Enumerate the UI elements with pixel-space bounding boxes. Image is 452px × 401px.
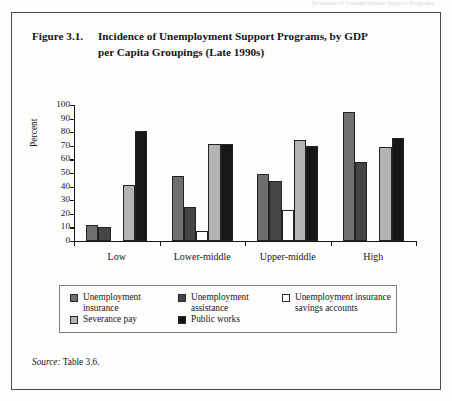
y-axis-tick-labels: 0102030405060708090100 xyxy=(46,105,70,241)
legend-label: Public works xyxy=(191,314,240,325)
y-axis-line xyxy=(74,105,75,241)
bar xyxy=(196,231,208,241)
legend-swatch-icon xyxy=(178,294,186,302)
x-axis-category-label: Upper-middle xyxy=(260,251,316,262)
y-tick-mark xyxy=(70,105,74,106)
legend-swatch-icon xyxy=(282,294,290,302)
y-tick-label: 40 xyxy=(61,182,70,191)
bar xyxy=(172,176,184,241)
bar xyxy=(379,147,391,241)
bar xyxy=(269,181,281,241)
y-tick-label: 60 xyxy=(61,155,70,164)
chart-legend: Unemployment insuranceUnemployment assis… xyxy=(59,285,397,333)
y-tick-mark xyxy=(70,173,74,174)
figure-title-line2: per Capita Groupings (Late 1990s) xyxy=(98,45,422,61)
chart-axes: LowLower-middleUpper-middleHigh xyxy=(74,105,416,241)
bar xyxy=(257,174,269,241)
bar xyxy=(294,140,306,241)
bar xyxy=(123,185,135,241)
y-tick-mark xyxy=(70,159,74,160)
figure-title: Figure 3.1.Incidence of Unemployment Sup… xyxy=(32,29,422,60)
bar xyxy=(355,162,367,241)
y-tick-label: 80 xyxy=(61,128,70,137)
legend-item[interactable]: Unemployment insurance xyxy=(70,292,141,315)
x-tick-mark xyxy=(416,241,417,246)
x-axis-category-label: Low xyxy=(108,251,126,262)
legend-item[interactable]: Unemployment assistance xyxy=(178,292,249,315)
y-tick-mark xyxy=(70,200,74,201)
legend-swatch-icon xyxy=(70,294,78,302)
bar xyxy=(135,131,147,241)
bar xyxy=(86,225,98,241)
legend-label: Severance pay xyxy=(83,314,137,325)
chart-plot-area: Percent 0102030405060708090100 LowLower-… xyxy=(32,87,424,267)
source-label: Source: xyxy=(32,357,61,367)
bar xyxy=(306,146,318,241)
legend-swatch-icon xyxy=(178,316,186,324)
x-tick-mark xyxy=(74,241,75,246)
y-tick-label: 100 xyxy=(56,100,70,109)
figure-title-line1: Incidence of Unemployment Support Progra… xyxy=(98,30,368,42)
bar xyxy=(282,210,294,241)
source-note: Source: Table 3.6. xyxy=(32,357,100,367)
bar xyxy=(98,227,110,241)
bar xyxy=(184,207,196,241)
figure-page: Incidence of Unemployment Support Progra… xyxy=(0,0,452,401)
x-tick-mark xyxy=(160,241,161,246)
y-tick-mark xyxy=(70,119,74,120)
legend-swatch-icon xyxy=(70,316,78,324)
legend-label: Unemployment insurance xyxy=(83,292,141,315)
legend-item[interactable]: Public works xyxy=(178,314,240,325)
x-tick-mark xyxy=(331,241,332,246)
bar xyxy=(221,144,233,241)
y-tick-label: 50 xyxy=(61,168,70,177)
bar xyxy=(208,144,220,241)
y-tick-label: 30 xyxy=(61,196,70,205)
legend-label: Unemployment assistance xyxy=(191,292,249,315)
figure-frame: Figure 3.1.Incidence of Unemployment Sup… xyxy=(11,12,441,390)
x-axis-category-label: Lower-middle xyxy=(174,251,231,262)
bar xyxy=(343,112,355,241)
bar xyxy=(392,138,404,241)
source-text: Table 3.6. xyxy=(61,357,100,367)
x-tick-mark xyxy=(245,241,246,246)
legend-item[interactable]: Unemployment insurance savings accounts xyxy=(282,292,391,315)
legend-label: Unemployment insurance savings accounts xyxy=(295,292,391,315)
figure-number: Figure 3.1. xyxy=(32,29,98,45)
y-tick-mark xyxy=(70,187,74,188)
legend-item[interactable]: Severance pay xyxy=(70,314,137,325)
x-axis-category-label: High xyxy=(363,251,383,262)
y-tick-label: 20 xyxy=(61,209,70,218)
running-header: Incidence of Unemployment Support Progra… xyxy=(0,0,452,10)
y-tick-label: 70 xyxy=(61,141,70,150)
y-tick-mark xyxy=(70,214,74,215)
y-axis-label: Percent xyxy=(29,119,39,148)
y-tick-label: 90 xyxy=(61,114,70,123)
y-tick-mark xyxy=(70,132,74,133)
y-tick-mark xyxy=(70,146,74,147)
y-tick-mark xyxy=(70,227,74,228)
y-tick-label: 10 xyxy=(61,223,70,232)
